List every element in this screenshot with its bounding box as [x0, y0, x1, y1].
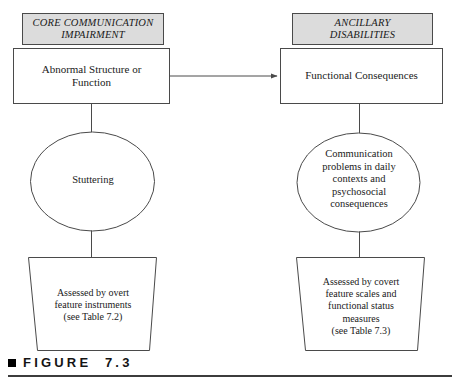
figure-caption-text: FIGURE 7.3: [23, 355, 133, 370]
header-label-ancillary-disabilities: ANCILLARY DISABILITIES: [292, 17, 433, 42]
figure-caption-rule: [8, 375, 452, 377]
figure-caption: FIGURE 7.3: [8, 355, 133, 370]
box-label-functional-consequences: Functional Consequences: [280, 69, 443, 82]
trapezoid-label-covert-feature-scales: Assessed by covert feature scales and fu…: [302, 276, 420, 337]
trapezoid-label-overt-feature-instruments: Assessed by overt feature instruments (s…: [34, 287, 152, 324]
ellipse-label-stuttering: Stuttering: [32, 174, 154, 187]
ellipse-label-communication-problems: Communication problems in daily contexts…: [298, 148, 420, 211]
header-label-core-communication-impairment: CORE COMMUNICATION IMPAIRMENT: [22, 17, 164, 42]
box-label-abnormal-structure-or-function: Abnormal Structure or Function: [13, 63, 170, 89]
figure-7-3-diagram: CORE COMMUNICATION IMPAIRMENT ANCILLARY …: [0, 0, 456, 380]
square-bullet-icon: [8, 359, 16, 367]
